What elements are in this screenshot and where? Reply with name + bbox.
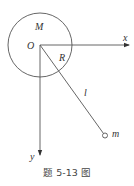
label-l: l xyxy=(84,87,87,98)
label-O: O xyxy=(27,40,34,51)
rod-line xyxy=(40,45,104,134)
label-y: y xyxy=(29,151,35,162)
label-M: M xyxy=(34,21,44,32)
label-m: m xyxy=(112,128,119,139)
label-x: x xyxy=(122,32,128,43)
point-mass xyxy=(103,133,108,138)
label-R: R xyxy=(58,52,65,63)
physics-diagram: M O R l m x y 题 5-13 图 xyxy=(0,0,134,186)
figure-caption: 题 5-13 图 xyxy=(43,167,91,178)
